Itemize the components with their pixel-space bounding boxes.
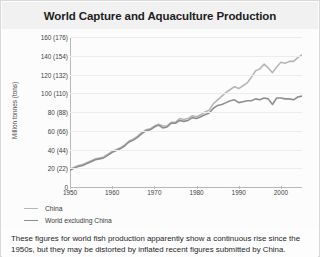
gridline bbox=[70, 112, 302, 113]
y-axis-tick: 100 (110) bbox=[22, 90, 68, 97]
chart-figure: World Capture and Aquaculture Production… bbox=[0, 0, 320, 257]
y-axis-tick: 0 bbox=[22, 184, 68, 191]
title-bar: World Capture and Aquaculture Production bbox=[2, 2, 318, 30]
y-axis-tick: 140 (154) bbox=[22, 52, 68, 59]
x-axis-tick-labels: 195019601970198019902000 bbox=[70, 189, 310, 201]
caption-text: These figures for world fish production … bbox=[2, 229, 318, 255]
legend-item[interactable]: World excluding China bbox=[24, 215, 112, 226]
gridline bbox=[70, 37, 302, 38]
x-axis-tick: 1960 bbox=[105, 189, 119, 196]
gridline bbox=[70, 131, 302, 132]
gridline bbox=[70, 168, 302, 169]
gridline bbox=[70, 75, 302, 76]
chart-legend: ChinaWorld excluding China bbox=[24, 203, 112, 227]
x-axis-tick: 2000 bbox=[274, 189, 288, 196]
x-axis-tick: 1980 bbox=[189, 189, 203, 196]
plot-area bbox=[70, 37, 302, 187]
legend-color-swatch bbox=[24, 208, 38, 210]
legend-label: World excluding China bbox=[45, 217, 112, 224]
gridline bbox=[70, 150, 302, 151]
y-axis-tick-labels: 020 (22)40 (44)60 (66)80 (88)100 (110)12… bbox=[22, 37, 68, 195]
chart-plot-card: Million tonnes (tons) 020 (22)40 (44)60 … bbox=[2, 29, 318, 229]
y-axis-title: Million tonnes (tons) bbox=[11, 65, 18, 157]
y-axis-tick: 160 (176) bbox=[22, 34, 68, 41]
y-axis-tick: 80 (88) bbox=[22, 109, 68, 116]
legend-label: China bbox=[45, 205, 62, 212]
figure-caption: These figures for world fish production … bbox=[2, 229, 318, 257]
x-axis-tick: 1970 bbox=[147, 189, 161, 196]
x-axis-tick: 1990 bbox=[232, 189, 246, 196]
series-line bbox=[70, 96, 302, 170]
y-axis-tick: 20 (22) bbox=[22, 165, 68, 172]
y-axis-tick: 120 (132) bbox=[22, 71, 68, 78]
gridline bbox=[70, 93, 302, 94]
x-axis-tick: 1950 bbox=[63, 189, 77, 196]
legend-item[interactable]: China bbox=[24, 203, 112, 214]
gridline bbox=[70, 56, 302, 57]
legend-color-swatch bbox=[24, 220, 38, 222]
page-title: World Capture and Aquaculture Production bbox=[2, 2, 318, 29]
y-axis-tick: 40 (44) bbox=[22, 146, 68, 153]
y-axis-tick: 60 (66) bbox=[22, 127, 68, 134]
x-axis-line bbox=[70, 187, 302, 188]
